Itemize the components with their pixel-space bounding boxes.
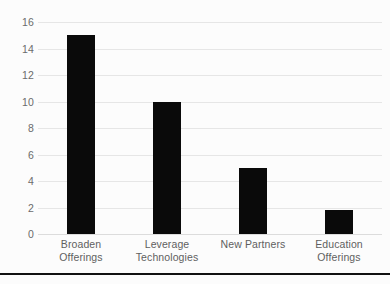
bar-chart-figure: 0246810121416 Broaden OfferingsLeverage … [0,0,390,284]
y-tick-label: 6 [28,149,34,161]
bar-group [239,22,267,234]
y-tick-label: 14 [22,43,34,55]
x-tick-label: Broaden Offerings [40,238,122,264]
bar [153,102,181,235]
y-tick-label: 12 [22,69,34,81]
y-axis: 0246810121416 [0,22,34,234]
y-tick-label: 16 [22,16,34,28]
bar [239,168,267,234]
y-tick-label: 2 [28,202,34,214]
bar [325,210,353,234]
plot-area [38,22,382,234]
page-bottom-rule [0,273,390,275]
bar [67,35,95,234]
gridline-0 [38,234,382,235]
x-tick-label: Education Offerings [298,238,380,264]
bar-group [153,22,181,234]
y-tick-label: 0 [28,228,34,240]
bar-group [67,22,95,234]
x-axis: Broaden OfferingsLeverage TechnologiesNe… [38,238,382,272]
y-tick-label: 8 [28,122,34,134]
bar-group [325,22,353,234]
x-tick-label: Leverage Technologies [126,238,208,264]
x-tick-label: New Partners [212,238,294,251]
y-tick-label: 10 [22,96,34,108]
y-tick-label: 4 [28,175,34,187]
